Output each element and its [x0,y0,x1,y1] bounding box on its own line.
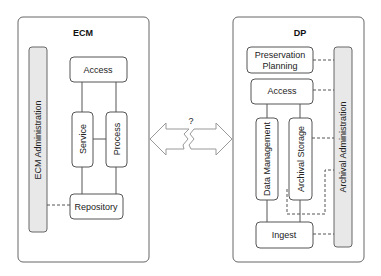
ecm-title: ECM [73,28,93,38]
ingest-label: Ingest [272,230,297,240]
ecm-access-label: Access [83,65,113,75]
connector-question-label: ? [188,116,193,126]
left-arrow-half [150,123,189,155]
ecm-service-label: Service [78,124,88,154]
archival-administration-label: Archival Administration [338,101,348,192]
preservation-planning-label-line1: Preservation [255,50,306,60]
ecm-repository-label: Repository [74,202,118,212]
archival-storage-label: Archival Storage [296,126,306,192]
diagram-canvas: ECM ECM Administration Access Service Pr… [0,0,381,276]
preservation-planning-label-line2: Planning [262,61,297,71]
right-arrow-half [189,123,232,155]
ecm-process-label: Process [112,122,122,155]
data-management-label: Data Management [262,121,272,196]
dp-access-label: Access [267,86,297,96]
dp-title: DP [294,28,307,38]
double-arrow-connector [150,123,232,155]
ecm-administration-label: ECM Administration [33,100,43,179]
